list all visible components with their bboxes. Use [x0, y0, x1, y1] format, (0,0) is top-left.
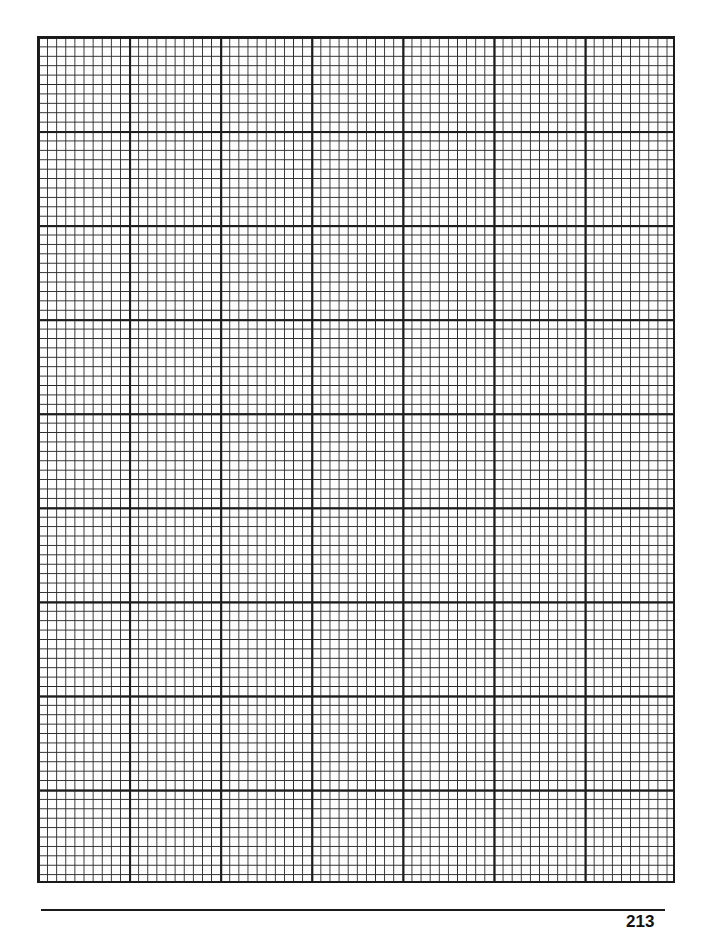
page-number: 213 [626, 913, 654, 930]
footer-rule [41, 909, 665, 911]
graph-paper-grid [37, 36, 675, 883]
